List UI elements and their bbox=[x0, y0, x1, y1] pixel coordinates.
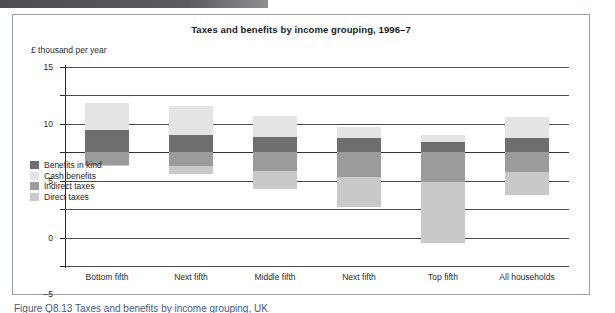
legend-label: Direct taxes bbox=[44, 192, 89, 203]
bar-segment bbox=[505, 138, 549, 152]
x-axis-label: Top fifth bbox=[428, 272, 458, 282]
x-axis-label: Middle fifth bbox=[254, 272, 295, 282]
page-header-band bbox=[0, 0, 268, 8]
gridline bbox=[65, 266, 569, 267]
bar-segment bbox=[169, 135, 213, 152]
y-axis-tick-label: −5 bbox=[43, 289, 53, 299]
bar-segment bbox=[85, 103, 129, 130]
bar-segment bbox=[253, 116, 297, 136]
y-axis-tick: −20 bbox=[60, 266, 65, 267]
legend-item: Direct taxes bbox=[30, 192, 155, 203]
bar-segment bbox=[85, 130, 129, 153]
bar-segment bbox=[169, 152, 213, 166]
bar-group bbox=[253, 67, 297, 266]
chart-legend: Benefits in kind Cash benefits Indirect … bbox=[30, 160, 155, 202]
figure-caption: Figure Q8.13 Taxes and benefits by incom… bbox=[14, 303, 268, 313]
legend-swatch-benefits-in-kind bbox=[30, 161, 39, 169]
bar-segment bbox=[337, 127, 381, 138]
x-axis-label: Bottom fifth bbox=[86, 272, 129, 282]
legend-label: Indirect taxes bbox=[44, 181, 95, 192]
y-axis-tick-label: 15 bbox=[44, 62, 53, 72]
bar-segment bbox=[337, 177, 381, 207]
bar-segment bbox=[505, 172, 549, 196]
bar-group bbox=[505, 67, 549, 266]
legend-item: Benefits in kind bbox=[30, 160, 155, 171]
legend-swatch-direct-taxes bbox=[30, 193, 39, 201]
y-axis-tick-label: 10 bbox=[44, 119, 53, 129]
figure-frame: Taxes and benefits by income grouping, 1… bbox=[12, 14, 590, 295]
chart-title: Taxes and benefits by income grouping, 1… bbox=[13, 24, 589, 35]
legend-item: Cash benefits bbox=[30, 171, 155, 182]
bar-group bbox=[337, 67, 381, 266]
bar-segment bbox=[505, 117, 549, 138]
bar-segment bbox=[505, 152, 549, 171]
bar-segment bbox=[253, 137, 297, 152]
y-axis-tick-label: 0 bbox=[48, 233, 53, 243]
bar-segment bbox=[337, 138, 381, 152]
bar-segment bbox=[253, 152, 297, 171]
x-axis-label: Next fifth bbox=[174, 272, 208, 282]
bar-group bbox=[169, 67, 213, 266]
bar-segment bbox=[421, 135, 465, 142]
legend-swatch-indirect-taxes bbox=[30, 182, 39, 190]
bar-segment bbox=[337, 152, 381, 176]
bar-segment bbox=[421, 142, 465, 152]
x-axis-label: Next fifth bbox=[342, 272, 376, 282]
x-axis-label: All households bbox=[499, 272, 554, 282]
bar-segment bbox=[253, 171, 297, 189]
bar-segment bbox=[169, 106, 213, 135]
legend-swatch-cash-benefits bbox=[30, 172, 39, 180]
bar-segment bbox=[169, 166, 213, 174]
legend-label: Cash benefits bbox=[44, 171, 96, 182]
y-axis-unit-label: £ thousand per year bbox=[31, 45, 107, 55]
bar-segment bbox=[421, 152, 465, 182]
legend-item: Indirect taxes bbox=[30, 181, 155, 192]
legend-label: Benefits in kind bbox=[44, 160, 102, 171]
bar-segment bbox=[421, 182, 465, 243]
bar-group bbox=[421, 67, 465, 266]
